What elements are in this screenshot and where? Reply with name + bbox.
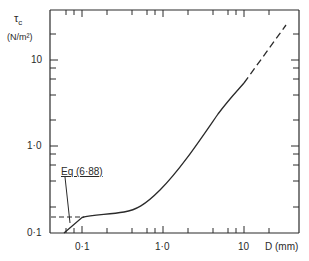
y-subscript: c (18, 18, 22, 27)
annotation-leader (65, 177, 70, 223)
y-axis-units: (N/m²) (7, 31, 33, 43)
y-tick-0-1: 0·1 (27, 227, 41, 239)
y-axis-ticks (50, 34, 299, 207)
equation-annotation: Eq (6·88) (61, 166, 103, 178)
y-tick-1: 1·0 (27, 140, 41, 152)
x-tick-10: 10 (238, 241, 249, 253)
x-tick-1: 1·0 (155, 241, 169, 253)
y-tick-10: 10 (31, 54, 42, 66)
plot-frame (50, 10, 299, 233)
curve-solid (64, 83, 244, 233)
x-axis-label: D (mm) (265, 241, 298, 253)
chart-canvas (0, 0, 309, 261)
x-axis-ticks (66, 10, 269, 233)
y-axis-label: τc (14, 12, 22, 29)
curve-dashed-extension (244, 25, 286, 83)
x-tick-0-1: 0·1 (75, 241, 89, 253)
